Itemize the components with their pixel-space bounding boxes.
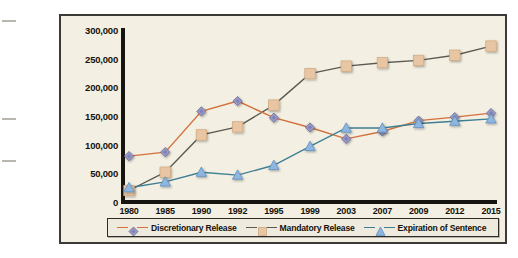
legend-label: Discretionary Release: [151, 223, 237, 233]
x-axis-tick-label: 1995: [254, 206, 294, 216]
x-axis-tick-label: 1992: [218, 206, 258, 216]
legend-item-discretionary-release[interactable]: Discretionary Release: [117, 223, 240, 233]
margin-tick-mark: [2, 118, 16, 120]
legend-label: Expiration of Sentence: [398, 223, 487, 233]
x-axis-tick-label: 2007: [362, 206, 402, 216]
legend-line-segment: [117, 227, 128, 229]
chart-frame: 300,000250,000200,000150,000100,00050,00…: [59, 14, 507, 244]
series-markers-discretionary-release: [124, 96, 495, 160]
series-expiration-of-sentence: [129, 119, 491, 188]
plot-area: 300,000250,000200,000150,000100,00050,00…: [61, 16, 509, 246]
legend-item-expiration-of-sentence[interactable]: Expiration of Sentence: [364, 223, 490, 233]
x-axis-tick-label: 1980: [109, 206, 149, 216]
legend-item-mandatory-release[interactable]: Mandatory Release: [246, 223, 358, 233]
series-markers-expiration-of-sentence: [124, 114, 496, 192]
series-markers-mandatory-release: [124, 41, 496, 196]
legend-line-segment: [246, 227, 257, 229]
x-axis-line: [121, 200, 497, 204]
margin-tick-mark: [2, 20, 16, 22]
x-axis-tick-label: 2009: [399, 206, 439, 216]
margin-tick-mark: [2, 160, 16, 162]
legend-label: Mandatory Release: [280, 223, 355, 233]
y-axis-line: [121, 28, 125, 204]
x-axis-tick-label: 2003: [326, 206, 366, 216]
series-mandatory-release: [129, 46, 491, 190]
x-axis-tick-label: 2015: [471, 206, 511, 216]
legend-marker-triangle-icon: [375, 223, 384, 232]
y-axis-tick-label: 300,000: [62, 25, 118, 36]
x-axis-tick-label: 1999: [290, 206, 330, 216]
chart-legend: Discretionary ReleaseMandatory ReleaseEx…: [107, 218, 499, 237]
figure-container: 300,000250,000200,000150,000100,00050,00…: [0, 0, 518, 258]
x-axis-tick-label: 1985: [145, 206, 185, 216]
legend-marker-square-icon: [257, 223, 266, 232]
y-axis-tick-label: 50,000: [62, 168, 118, 179]
y-axis-tick-label: 150,000: [62, 111, 118, 122]
x-axis-tick-label: 2012: [435, 206, 475, 216]
x-axis-tick-label: 1990: [181, 206, 221, 216]
series-discretionary-release: [129, 101, 491, 156]
y-axis-tick-label: 100,000: [62, 139, 118, 150]
legend-marker-diamond-icon: [128, 223, 137, 232]
y-axis-tick-label: 250,000: [62, 53, 118, 64]
y-axis-tick-label: 200,000: [62, 82, 118, 93]
legend-line-segment: [364, 227, 375, 229]
